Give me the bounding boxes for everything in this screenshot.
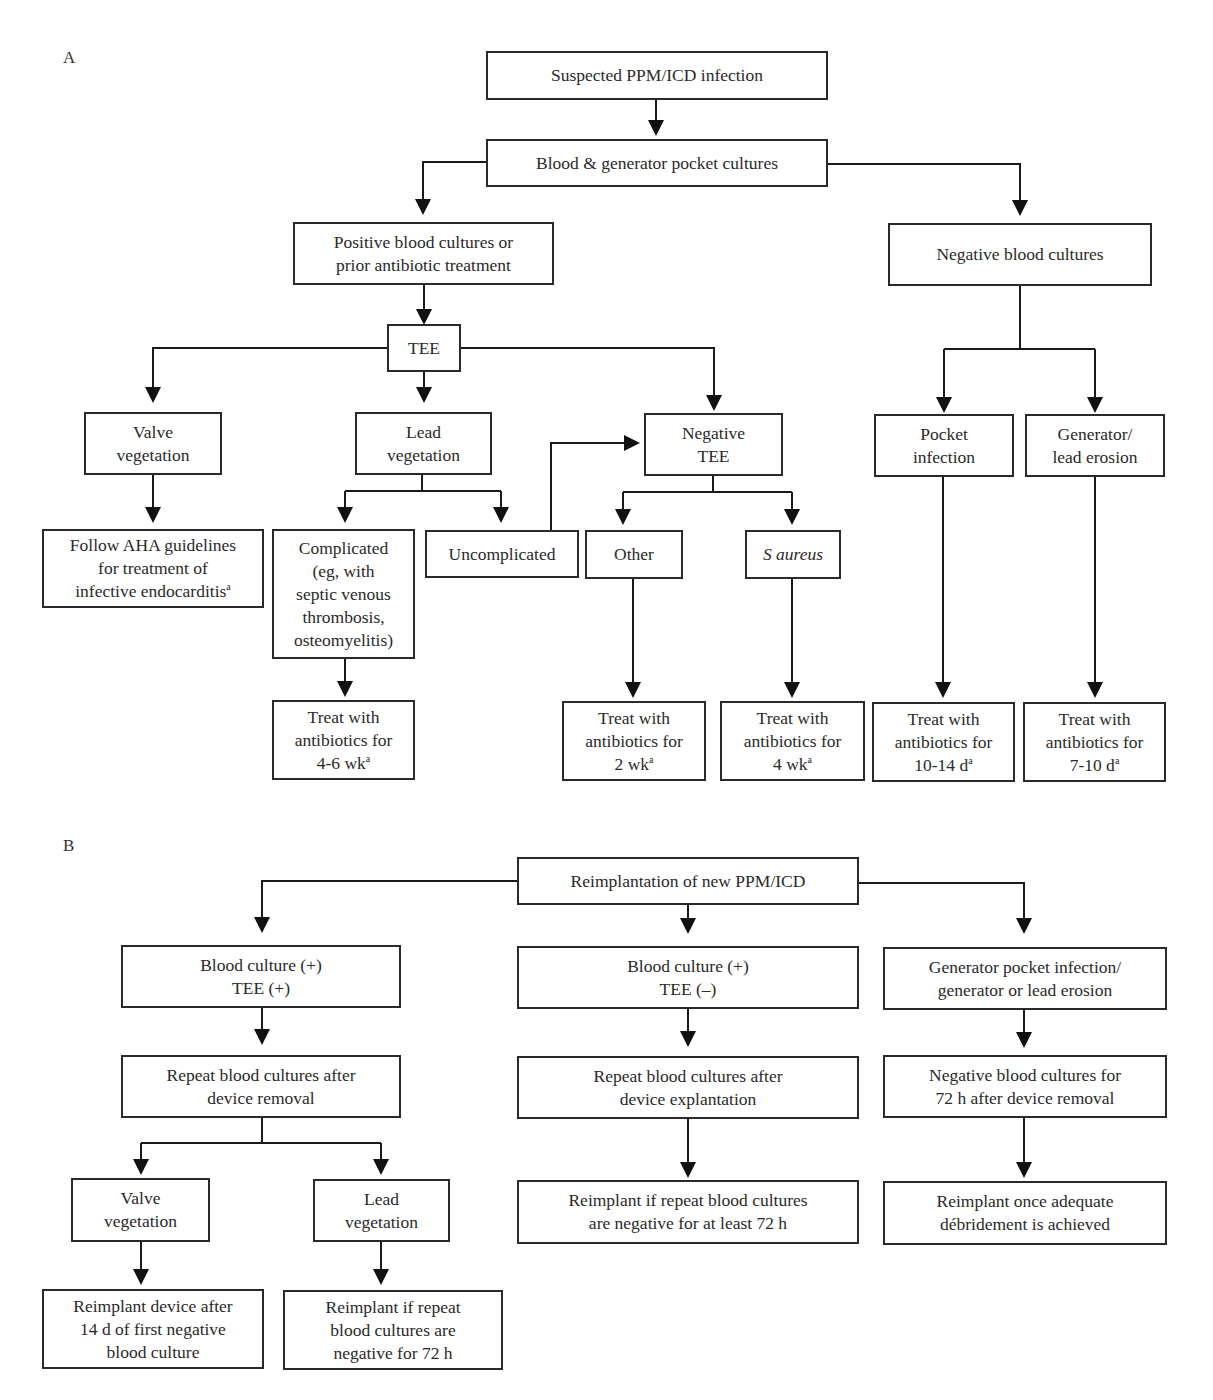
- node-generator-lead-erosion: Generator/ lead erosion: [1025, 414, 1165, 477]
- node-negative-blood-cultures: Negative blood cultures: [888, 223, 1152, 286]
- node-text: Reimplant device after 14 d of first neg…: [73, 1295, 232, 1364]
- footnote-marker: a: [968, 755, 972, 766]
- footnote-marker: a: [649, 754, 653, 765]
- node-text: Negative blood cultures for 72 h after d…: [929, 1064, 1121, 1110]
- node-positive-blood-cultures: Positive blood cultures or prior antibio…: [293, 222, 554, 285]
- panel-b-label: B: [63, 836, 74, 856]
- node-other: Other: [585, 530, 683, 579]
- footnote-marker: a: [226, 581, 230, 592]
- node-text: Valve vegetation: [104, 1187, 177, 1233]
- node-text: Other: [614, 543, 654, 566]
- node-valve-vegetation: Valve vegetation: [84, 412, 222, 475]
- node-text: Valve vegetation: [117, 421, 190, 467]
- node-b-valve-vegetation: Valve vegetation: [71, 1178, 210, 1242]
- node-text: S aureus: [763, 543, 823, 566]
- node-text: Treat with antibiotics for 4 wka: [744, 707, 842, 776]
- panel-a-label: A: [63, 48, 75, 68]
- node-text: Pocket infection: [913, 423, 975, 469]
- node-treat-7-10-d: Treat with antibiotics for 7-10 da: [1023, 702, 1166, 782]
- node-text: Negative blood cultures: [936, 243, 1103, 266]
- node-reimplant-72h-least: Reimplant if repeat blood cultures are n…: [517, 1180, 859, 1244]
- node-text: Complicated (eg, with septic venous thro…: [294, 537, 393, 652]
- node-reimplant-debridement: Reimplant once adequate débridement is a…: [883, 1181, 1167, 1245]
- node-text: Reimplant once adequate débridement is a…: [937, 1190, 1114, 1236]
- node-text: Treat with antibiotics for 2 wka: [585, 707, 683, 776]
- node-negative-cultures-72h: Negative blood cultures for 72 h after d…: [883, 1055, 1167, 1118]
- node-text-main: Treat with antibiotics for 4 wk: [744, 708, 842, 774]
- node-text: Treat with antibiotics for 10-14 da: [895, 708, 993, 777]
- node-text: TEE: [408, 337, 440, 360]
- node-text: Generator/ lead erosion: [1052, 423, 1137, 469]
- footnote-marker: a: [1115, 755, 1119, 766]
- node-treat-2-wk: Treat with antibiotics for 2 wka: [562, 701, 706, 781]
- node-b-lead-vegetation: Lead vegetation: [313, 1179, 450, 1242]
- node-suspected-infection: Suspected PPM/ICD infection: [486, 51, 828, 100]
- node-repeat-cultures-removal: Repeat blood cultures after device remov…: [121, 1055, 401, 1118]
- node-follow-aha-guidelines: Follow AHA guidelines for treatment of i…: [42, 529, 264, 608]
- node-text-main: Treat with antibiotics for 7-10 d: [1046, 709, 1144, 775]
- node-text: Follow AHA guidelines for treatment of i…: [70, 534, 236, 603]
- footnote-marker: a: [808, 754, 812, 765]
- node-bc-pos-tee-pos: Blood culture (+) TEE (+): [121, 945, 401, 1008]
- node-s-aureus: S aureus: [745, 530, 841, 579]
- node-text-main: Follow AHA guidelines for treatment of i…: [70, 535, 236, 601]
- node-reimplant-14d: Reimplant device after 14 d of first neg…: [42, 1289, 264, 1369]
- node-text: Positive blood cultures or prior antibio…: [334, 231, 513, 277]
- node-bc-pos-tee-neg: Blood culture (+) TEE (–): [517, 946, 859, 1009]
- node-text: Reimplantation of new PPM/ICD: [571, 870, 806, 893]
- node-text: Treat with antibiotics for 7-10 da: [1046, 708, 1144, 777]
- node-text: Repeat blood cultures after device expla…: [593, 1065, 782, 1111]
- node-repeat-cultures-explantation: Repeat blood cultures after device expla…: [517, 1056, 859, 1119]
- node-blood-pocket-cultures: Blood & generator pocket cultures: [486, 139, 828, 187]
- node-text: Reimplant if repeat blood cultures are n…: [325, 1296, 460, 1365]
- node-text: Lead vegetation: [345, 1188, 418, 1234]
- node-tee: TEE: [387, 324, 461, 372]
- node-text: Reimplant if repeat blood cultures are n…: [568, 1189, 807, 1235]
- node-negative-tee: Negative TEE: [644, 413, 783, 476]
- node-text: Treat with antibiotics for 4-6 wka: [295, 706, 393, 775]
- node-text: Repeat blood cultures after device remov…: [166, 1064, 355, 1110]
- node-pocket-infection: Pocket infection: [874, 414, 1014, 477]
- node-text: Blood culture (+) TEE (+): [200, 954, 322, 1000]
- node-text: Negative TEE: [682, 422, 745, 468]
- node-reimplant-72h: Reimplant if repeat blood cultures are n…: [283, 1290, 503, 1370]
- node-treat-4-6-wk: Treat with antibiotics for 4-6 wka: [272, 700, 415, 780]
- node-text-main: Treat with antibiotics for 10-14 d: [895, 709, 993, 775]
- node-text: Generator pocket infection/ generator or…: [929, 956, 1121, 1002]
- node-text: Uncomplicated: [449, 543, 556, 566]
- footnote-marker: a: [366, 753, 370, 764]
- node-text: Blood & generator pocket cultures: [536, 152, 778, 175]
- node-treat-10-14-d: Treat with antibiotics for 10-14 da: [872, 702, 1015, 782]
- node-complicated: Complicated (eg, with septic venous thro…: [272, 529, 415, 659]
- node-text-main: Treat with antibiotics for 4-6 wk: [295, 707, 393, 773]
- node-text: Lead vegetation: [387, 421, 460, 467]
- node-uncomplicated: Uncomplicated: [425, 530, 579, 578]
- node-text-main: Treat with antibiotics for 2 wk: [585, 708, 683, 774]
- node-lead-vegetation: Lead vegetation: [355, 412, 492, 475]
- node-text: Suspected PPM/ICD infection: [551, 64, 763, 87]
- node-treat-4-wk: Treat with antibiotics for 4 wka: [720, 701, 865, 781]
- node-generator-pocket-infection: Generator pocket infection/ generator or…: [883, 947, 1167, 1010]
- node-reimplantation: Reimplantation of new PPM/ICD: [517, 857, 859, 905]
- node-text: Blood culture (+) TEE (–): [627, 955, 749, 1001]
